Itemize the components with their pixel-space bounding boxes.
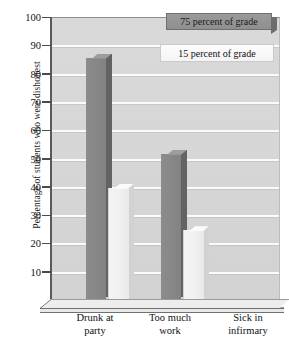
bar-front-face (108, 188, 129, 301)
y-tick-label-60: 60 (1, 125, 41, 136)
y-tick-label-100: 100 (1, 12, 41, 23)
legend-light-label: 15 percent of grade (178, 48, 255, 59)
y-tick-mark-40 (42, 186, 51, 188)
category-label-line2: infirmary (203, 324, 289, 337)
y-tick-mark-90 (42, 45, 51, 47)
y-tick-label-80: 80 (1, 68, 41, 79)
y-tick-mark-10 (42, 271, 51, 273)
x-category-label-1: Too muchwork (125, 311, 215, 337)
legend-dark-label: 75 percent of grade (180, 16, 257, 27)
floor-edge-lines (40, 299, 289, 309)
category-label-line2: work (125, 324, 215, 337)
y-axis-tick-labels: 100908070605040302010 (0, 0, 41, 341)
x-category-label-2: Sick ininfirmary (203, 311, 289, 337)
category-label-line1: Too much (125, 311, 215, 324)
bar-chart: Percentage of students who were dishones… (0, 0, 289, 341)
y-tick-mark-70 (42, 101, 51, 103)
bar-front-face (86, 58, 106, 301)
y-tick-label-70: 70 (1, 96, 41, 107)
y-tick-mark-80 (42, 73, 51, 75)
category-label-line1: Sick in (203, 311, 289, 324)
y-tick-label-90: 90 (1, 40, 41, 51)
y-tick-mark-60 (42, 130, 51, 132)
y-tick-label-50: 50 (1, 153, 41, 164)
bar-front-face (161, 154, 181, 301)
bar-dark-0 (86, 58, 106, 301)
legend-item-75-percent[interactable]: 75 percent of grade (166, 13, 272, 30)
bar-front-face (183, 230, 204, 301)
y-tick-label-30: 30 (1, 210, 41, 221)
bar-light-1 (183, 230, 203, 301)
y-tick-label-10: 10 (1, 266, 41, 277)
legend-item-15-percent[interactable]: 15 percent of grade (160, 44, 274, 62)
y-tick-mark-30 (42, 215, 51, 217)
bar-dark-1 (161, 154, 181, 301)
y-tick-mark-20 (42, 243, 51, 245)
bar-light-0 (108, 188, 128, 301)
y-tick-label-40: 40 (1, 181, 41, 192)
y-tick-mark-100 (42, 17, 51, 19)
y-tick-mark-50 (42, 158, 51, 160)
y-tick-label-20: 20 (1, 238, 41, 249)
